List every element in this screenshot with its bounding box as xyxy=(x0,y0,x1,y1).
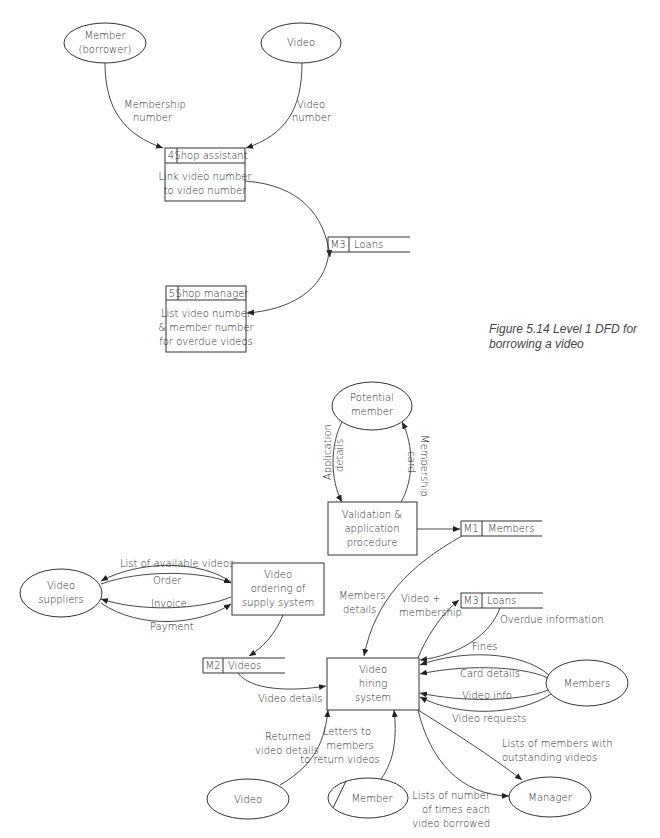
svg-text:hiring: hiring xyxy=(359,678,387,689)
svg-text:Video: Video xyxy=(234,794,262,805)
process-4-shop-assistant[interactable]: 4 Shop assistant Link video number to vi… xyxy=(158,148,252,201)
svg-text:Video info: Video info xyxy=(462,690,512,701)
svg-text:Membership: Membership xyxy=(124,99,186,110)
svg-text:5: 5 xyxy=(169,288,175,299)
svg-text:Link video number: Link video number xyxy=(158,171,252,182)
svg-text:Member: Member xyxy=(351,793,393,804)
svg-text:Video: Video xyxy=(47,580,75,591)
svg-text:M1: M1 xyxy=(464,523,479,534)
svg-text:Invoice: Invoice xyxy=(151,598,187,609)
svg-text:List video number: List video number xyxy=(161,308,252,319)
svg-text:number: number xyxy=(133,112,173,123)
svg-text:membership: membership xyxy=(399,607,462,618)
svg-text:ordering of: ordering of xyxy=(251,583,306,594)
svg-text:number: number xyxy=(292,112,332,123)
svg-text:Members: Members xyxy=(564,678,610,689)
svg-text:Fines: Fines xyxy=(472,641,498,652)
svg-text:procedure: procedure xyxy=(347,537,398,548)
svg-text:borrowing a video: borrowing a video xyxy=(489,337,584,351)
entity-video-bottom[interactable]: Video xyxy=(207,779,289,819)
svg-text:supply system: supply system xyxy=(242,597,314,608)
svg-text:4: 4 xyxy=(168,150,174,161)
svg-text:Returned: Returned xyxy=(265,731,311,742)
flow-p4-to-loans xyxy=(245,181,330,257)
svg-text:members: members xyxy=(326,740,373,751)
svg-text:Videos: Videos xyxy=(228,660,261,671)
store-m3-loans-top[interactable]: M3 Loans xyxy=(328,237,410,252)
svg-text:card: card xyxy=(406,451,417,473)
svg-text:M3: M3 xyxy=(464,595,479,606)
svg-text:Video details: Video details xyxy=(258,693,323,704)
process-validation[interactable]: Validation & application procedure xyxy=(328,502,417,555)
svg-text:Lists of members with: Lists of members with xyxy=(502,738,613,749)
svg-text:Video: Video xyxy=(287,37,315,48)
svg-text:M2: M2 xyxy=(206,660,221,671)
svg-text:Shop manager: Shop manager xyxy=(176,288,250,299)
entity-manager[interactable]: Manager xyxy=(509,777,591,817)
svg-text:of times each: of times each xyxy=(422,804,490,815)
svg-text:suppliers: suppliers xyxy=(38,594,83,605)
entity-members[interactable]: Members xyxy=(546,660,628,706)
flow-video-number xyxy=(246,63,302,148)
svg-text:Shop assistant: Shop assistant xyxy=(174,150,247,161)
entity-potential-member[interactable]: Potential member xyxy=(332,382,412,430)
svg-text:details: details xyxy=(334,439,345,472)
svg-text:Order: Order xyxy=(153,575,182,586)
svg-text:for overdue videos: for overdue videos xyxy=(159,336,253,347)
svg-text:Payment: Payment xyxy=(150,621,194,632)
flow-loans-to-p5 xyxy=(247,252,329,313)
entity-video-top[interactable]: Video xyxy=(261,23,341,63)
svg-text:(borrower): (borrower) xyxy=(79,44,132,55)
flow-video-details xyxy=(238,673,326,689)
svg-text:member: member xyxy=(351,406,394,417)
process-video-hiring[interactable]: Video hiring system xyxy=(327,658,419,710)
svg-text:Members: Members xyxy=(339,590,385,601)
svg-text:to video number: to video number xyxy=(164,185,248,196)
flow-letters-to-members xyxy=(381,710,395,779)
entity-member-borrower[interactable]: Member (borrower) xyxy=(64,23,146,63)
entity-member-bottom[interactable]: Member xyxy=(328,778,408,818)
svg-text:Overdue information: Overdue information xyxy=(500,614,604,625)
svg-text:Application: Application xyxy=(322,424,333,480)
svg-text:Member: Member xyxy=(84,30,126,41)
svg-text:Loans: Loans xyxy=(354,239,383,250)
svg-text:Members: Members xyxy=(488,523,534,534)
svg-text:system: system xyxy=(355,692,391,703)
dfd-canvas: Member (borrower) Video Membership numbe… xyxy=(0,0,660,838)
svg-text:Validation &: Validation & xyxy=(342,509,403,520)
svg-text:Card details: Card details xyxy=(460,668,520,679)
svg-text:Manager: Manager xyxy=(528,792,572,803)
svg-text:Lists of number: Lists of number xyxy=(412,790,491,801)
process-video-ordering[interactable]: Video ordering of supply system xyxy=(232,563,324,615)
svg-text:to return videos: to return videos xyxy=(300,754,380,765)
svg-text:Loans: Loans xyxy=(487,595,516,606)
svg-text:Video: Video xyxy=(264,569,292,580)
store-m3-loans-bottom[interactable]: M3 Loans xyxy=(461,593,543,608)
svg-text:application: application xyxy=(344,523,399,534)
svg-text:Video: Video xyxy=(297,99,325,110)
entity-video-suppliers[interactable]: Video suppliers xyxy=(20,569,102,617)
process-5-shop-manager[interactable]: 5 Shop manager List video number & membe… xyxy=(158,286,254,352)
svg-text:Video +: Video + xyxy=(401,593,441,604)
svg-text:Potential: Potential xyxy=(350,392,394,403)
svg-text:Video: Video xyxy=(359,664,387,675)
store-m1-members[interactable]: M1 Members xyxy=(461,521,542,536)
svg-text:details: details xyxy=(343,604,376,615)
svg-text:video borrowed: video borrowed xyxy=(412,818,490,829)
svg-text:Letters to: Letters to xyxy=(323,726,371,737)
svg-text:List of available videos: List of available videos xyxy=(120,558,234,569)
figure-caption: Figure 5.14 Level 1 DFD for borrowing a … xyxy=(489,322,638,351)
svg-text:M3: M3 xyxy=(331,239,346,250)
svg-text:Membership: Membership xyxy=(419,435,430,497)
svg-text:& member number: & member number xyxy=(158,322,254,333)
top-diagram: Member (borrower) Video Membership numbe… xyxy=(64,23,410,352)
flow-ordering-to-videos-store xyxy=(249,615,283,656)
svg-text:Video requests: Video requests xyxy=(452,713,526,724)
svg-text:Figure 5.14 Level 1 DFD for: Figure 5.14 Level 1 DFD for xyxy=(489,322,638,336)
svg-text:outstanding videos: outstanding videos xyxy=(502,752,597,763)
store-m2-videos[interactable]: M2 Videos xyxy=(203,658,285,673)
bottom-diagram: Potential member Application details Mem… xyxy=(20,382,628,829)
